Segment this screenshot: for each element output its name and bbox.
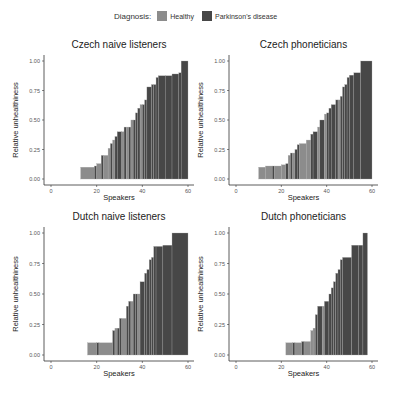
bar: [147, 270, 149, 355]
bar: [156, 78, 158, 179]
bar: [318, 306, 323, 355]
bar: [94, 166, 96, 179]
bar: [81, 167, 95, 179]
x-axis-label: Speakers: [288, 193, 320, 202]
x-axis-label: Speakers: [103, 369, 135, 378]
bar: [347, 78, 349, 179]
bar: [361, 61, 372, 179]
bar: [122, 318, 127, 355]
bar: [165, 76, 172, 179]
y-tick-label: 0.75: [214, 88, 225, 94]
x-tick-label: 0: [234, 188, 237, 194]
bar: [324, 114, 326, 179]
bar: [295, 343, 302, 355]
x-tick-label: 0: [49, 364, 52, 370]
x-tick-label: 60: [185, 364, 191, 370]
facet-title: Czech naive listeners: [71, 39, 166, 50]
bar: [131, 301, 133, 355]
bar: [354, 73, 361, 179]
x-tick-label: 20: [94, 188, 100, 194]
y-tick-label: 0.00: [214, 176, 225, 182]
bar: [129, 301, 131, 355]
bar: [154, 246, 156, 355]
bar: [293, 153, 295, 179]
bar: [311, 134, 313, 179]
y-tick-label: 0.00: [214, 352, 225, 358]
bar: [338, 270, 340, 355]
bar: [297, 145, 299, 179]
facet-panel: Dutch naive listeners0.000.250.500.751.0…: [11, 211, 194, 378]
bar: [331, 288, 333, 355]
bar: [151, 257, 153, 355]
bar: [104, 155, 109, 179]
bar: [120, 318, 122, 355]
bar: [151, 85, 153, 179]
bar: [340, 96, 342, 179]
bar: [295, 150, 297, 180]
bar: [117, 328, 119, 355]
facet-title: Dutch naive listeners: [73, 211, 166, 222]
bar: [343, 87, 345, 179]
y-tick-label: 0.75: [214, 261, 225, 267]
bar: [329, 294, 331, 355]
y-tick-label: 1.00: [29, 58, 40, 64]
bar: [113, 331, 115, 355]
bar: [122, 132, 124, 179]
x-tick-label: 20: [278, 188, 284, 194]
bar: [336, 100, 338, 179]
bar: [126, 306, 128, 355]
bar: [135, 294, 137, 355]
y-axis-label: Relative unhealthiness: [196, 82, 205, 158]
facet-title: Dutch phoneticians: [261, 211, 346, 222]
bar: [163, 245, 172, 355]
bar: [343, 257, 352, 355]
bar: [181, 61, 188, 179]
facet-title: Czech phoneticians: [260, 39, 347, 50]
bar: [97, 164, 102, 179]
bar: [338, 100, 340, 179]
bar: [290, 153, 292, 179]
x-axis-label: Speakers: [288, 369, 320, 378]
facet-panel: Czech phoneticians0.000.250.500.751.0002…: [196, 39, 378, 202]
bar: [306, 140, 311, 179]
bar: [352, 245, 359, 355]
bar: [156, 246, 163, 355]
bar: [327, 113, 329, 179]
y-tick-label: 0.50: [29, 117, 40, 123]
y-tick-label: 0.75: [29, 261, 40, 267]
y-axis-label: Relative unhealthiness: [11, 82, 20, 158]
bar: [299, 144, 306, 179]
facet-panel: Dutch phoneticians0.000.250.500.751.0002…: [196, 211, 378, 378]
bar: [331, 105, 336, 179]
bar: [286, 343, 293, 355]
x-tick-label: 20: [94, 364, 100, 370]
bar: [318, 127, 320, 179]
bar: [324, 301, 329, 355]
bar: [97, 343, 99, 355]
bar: [115, 137, 117, 179]
bar: [179, 73, 181, 179]
bar: [272, 166, 274, 179]
bar: [311, 331, 313, 355]
x-tick-label: 0: [234, 364, 237, 370]
x-tick-label: 40: [139, 364, 145, 370]
bar: [147, 87, 152, 179]
bar: [126, 127, 128, 179]
bar: [345, 85, 347, 179]
bar: [108, 148, 110, 179]
bar: [117, 132, 122, 179]
x-tick-label: 60: [369, 188, 375, 194]
bar: [140, 105, 142, 179]
x-tick-label: 20: [278, 364, 284, 370]
y-tick-label: 0.25: [29, 147, 40, 153]
bar: [329, 108, 331, 179]
bar: [172, 74, 179, 179]
bar: [265, 166, 272, 179]
bar: [286, 164, 288, 179]
bar: [259, 167, 266, 179]
x-tick-label: 40: [324, 188, 330, 194]
y-tick-label: 1.00: [214, 58, 225, 64]
bar: [145, 100, 147, 179]
bar: [138, 108, 140, 179]
bar: [115, 328, 117, 355]
